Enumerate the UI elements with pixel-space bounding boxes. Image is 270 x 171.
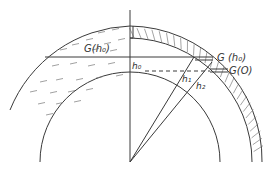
- hatch-mark: [167, 33, 169, 44]
- liquid-dash: [110, 50, 117, 52]
- hatch-mark: [199, 48, 200, 59]
- liquid-dash: [70, 63, 77, 65]
- liquid-dash: [74, 101, 81, 103]
- hatch-mark: [174, 35, 175, 46]
- liquid-dash: [86, 89, 93, 91]
- hatch-mark: [246, 110, 253, 118]
- radius-h2: [130, 62, 212, 162]
- hatch-mark: [243, 103, 250, 112]
- liquid-dash: [72, 44, 79, 46]
- hatch-mark: [152, 30, 155, 41]
- label-h1: h₁: [182, 74, 192, 84]
- liquid-dash: [56, 79, 63, 81]
- hatch-mark: [145, 29, 149, 40]
- hatch-mark: [240, 96, 246, 105]
- liquid-dash: [76, 79, 83, 81]
- label-g-0: G(O): [229, 65, 252, 76]
- liquid-dash: [46, 114, 53, 116]
- hatch-mark: [233, 84, 238, 94]
- liquid-dash: [118, 39, 125, 41]
- hatch-mark: [237, 90, 243, 100]
- cross-section-diagram: G(h₀) G (h₀) G(O) h₀ h₁ h₂: [0, 0, 270, 171]
- liquid-dash: [50, 92, 57, 94]
- liquid-dash: [98, 32, 105, 34]
- liquid-fill: [30, 29, 125, 116]
- liquid-dash: [40, 81, 47, 83]
- hatch-mark: [181, 38, 182, 49]
- label-h2: h₂: [196, 81, 206, 91]
- liquid-dash: [52, 65, 59, 67]
- liquid-dash: [30, 91, 37, 93]
- hatch-mark: [194, 44, 195, 55]
- label-g-h0-right: G (h₀): [217, 52, 246, 63]
- liquid-dash: [108, 63, 115, 65]
- hatch-mark: [159, 31, 162, 42]
- outer-arc: [10, 26, 262, 162]
- hatch-mark: [250, 124, 258, 132]
- hatch-mark: [205, 52, 207, 63]
- liquid-dash: [116, 75, 123, 77]
- liquid-dash: [86, 39, 93, 41]
- liquid-dash: [60, 49, 67, 51]
- label-g-h0-left: G(h₀): [84, 43, 110, 54]
- label-h0: h₀: [132, 61, 142, 71]
- liquid-dash: [88, 65, 95, 67]
- hatch-mark: [229, 78, 234, 88]
- liquid-dash: [112, 29, 119, 31]
- hatch-mark: [248, 117, 256, 125]
- hatch-mark: [216, 62, 219, 73]
- liquid-dash: [38, 103, 45, 105]
- hatch-mark: [137, 28, 141, 38]
